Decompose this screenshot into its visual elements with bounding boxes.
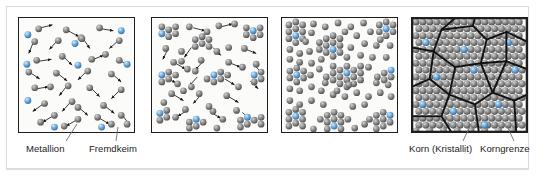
cluster-group [156, 24, 264, 132]
panel-gefuege [411, 17, 528, 133]
panel-3-canvas [282, 18, 397, 132]
crystallization-figure: Metallion Fremdkeim Korn (Kristallit) Ko… [0, 0, 541, 182]
label-metallion: Metallion [26, 143, 64, 154]
panel-kristallwachstum [281, 17, 398, 133]
panel-2-canvas [152, 18, 267, 132]
panel-schmelze [18, 17, 135, 133]
label-fremdkeim: Fremdkeim [89, 143, 137, 154]
panel-keimbildung [151, 17, 268, 133]
metal-ion-group [25, 24, 130, 129]
panel-4-canvas [412, 18, 527, 132]
label-korn-kristallit: Korn (Kristallit) [409, 143, 472, 154]
crystallite-group [286, 19, 397, 132]
panel-1-canvas [19, 18, 134, 132]
label-korngrenze: Korngrenze [480, 143, 530, 154]
